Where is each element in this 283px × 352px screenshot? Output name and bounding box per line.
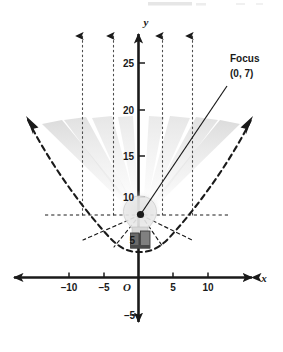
y-tick-label-10: 10 bbox=[123, 192, 135, 203]
y-tick-label-neg5: –5 bbox=[124, 310, 136, 321]
x-tick-label-neg10: –10 bbox=[61, 282, 78, 293]
y-tick-label-15: 15 bbox=[123, 151, 135, 162]
focus-callout-line2: (0, 7) bbox=[230, 68, 253, 79]
x-tick-label-5: 5 bbox=[170, 282, 176, 293]
focus-callout-line1: Focus bbox=[230, 53, 260, 64]
origin-label: O bbox=[123, 281, 131, 293]
parabola-arrow-right bbox=[241, 116, 254, 134]
scan-artifact bbox=[148, 2, 263, 6]
x-tick-label-neg5: –5 bbox=[98, 282, 110, 293]
focus-point bbox=[137, 211, 144, 218]
x-axis-label: x bbox=[260, 272, 267, 284]
parabola-arrow-left bbox=[26, 116, 39, 134]
y-axis-label: y bbox=[142, 16, 149, 28]
parabolic-reflector-figure: –10 –5 5 10 25 20 15 10 5 –5 O x y Focus… bbox=[0, 0, 283, 352]
y-tick-label-25: 25 bbox=[123, 58, 135, 69]
figure-canvas: –10 –5 5 10 25 20 15 10 5 –5 O x y Focus… bbox=[0, 0, 283, 352]
y-tick-label-20: 20 bbox=[123, 105, 135, 116]
y-tick-label-5: 5 bbox=[129, 235, 135, 246]
x-tick-label-10: 10 bbox=[202, 282, 214, 293]
